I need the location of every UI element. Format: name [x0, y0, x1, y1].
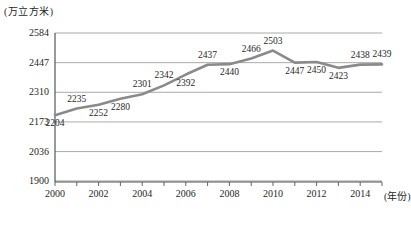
y-axis-tick-label: 2584: [15, 27, 49, 38]
data-point-label: 2280: [105, 102, 135, 112]
x-axis-caption: (年份): [384, 188, 411, 203]
data-point-label: 2439: [367, 49, 397, 59]
x-axis-tick-marks: [55, 182, 382, 186]
data-point-label: 2204: [40, 118, 70, 128]
data-point-label: 2437: [193, 50, 223, 60]
data-point-label: 2423: [323, 71, 353, 81]
y-axis-tick-label: 2036: [15, 146, 49, 157]
data-series-line: [55, 51, 382, 116]
x-axis-tick-label: 2010: [256, 188, 290, 199]
y-axis-tick-label: 2310: [15, 86, 49, 97]
x-axis-tick-label: 2006: [169, 188, 203, 199]
data-point-label: 2235: [62, 94, 92, 104]
data-point-label: 2440: [214, 67, 244, 77]
data-point-label: 2301: [127, 79, 157, 89]
y-axis-tick-label: 1900: [15, 175, 49, 186]
x-axis-tick-label: 2004: [125, 188, 159, 199]
x-axis-tick-label: 2014: [343, 188, 377, 199]
y-axis-tick-label: 2447: [15, 57, 49, 68]
x-axis-tick-label: 2002: [82, 188, 116, 199]
x-axis-tick-label: 2012: [300, 188, 334, 199]
data-point-label: 2392: [171, 78, 201, 88]
data-point-label: 2503: [258, 36, 288, 46]
x-axis-tick-label: 2000: [38, 188, 72, 199]
x-axis-tick-label: 2008: [212, 188, 246, 199]
